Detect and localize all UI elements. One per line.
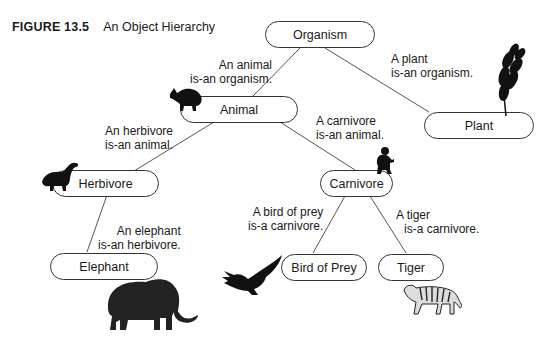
wheat-icon	[492, 40, 532, 116]
node-label: Animal	[220, 103, 258, 117]
relation-tiger-carnivore: A tiger is-a carnivore.	[396, 208, 479, 236]
node-plant: Plant	[424, 112, 534, 139]
eagle-icon	[220, 253, 284, 301]
node-organism: Organism	[265, 21, 375, 48]
node-label: Plant	[465, 119, 494, 133]
relation-elephant-herbivore: An elephant is-an herbivore.	[98, 224, 181, 252]
node-label: Carnivore	[329, 177, 383, 191]
monkey-icon	[372, 146, 396, 176]
relation-carnivore-animal: A carnivore is-an animal.	[316, 114, 384, 142]
node-label: Elephant	[79, 260, 128, 274]
node-label: Herbivore	[78, 177, 132, 191]
relation-animal-organism: An animal is-an organism.	[190, 58, 272, 86]
relation-bird-carnivore: A bird of prey is-a carnivore.	[248, 205, 323, 233]
dinosaur-icon	[40, 162, 82, 192]
tiger-icon	[400, 280, 464, 316]
node-tiger: Tiger	[378, 254, 444, 281]
node-bird-of-prey: Bird of Prey	[281, 254, 367, 281]
node-label: Tiger	[397, 261, 425, 275]
relation-plant-organism: A plant is-an organism.	[391, 52, 473, 80]
node-label: Organism	[293, 28, 347, 42]
node-label: Bird of Prey	[291, 261, 356, 275]
elephant-icon	[104, 276, 200, 332]
relation-herbivore-animal: An herbivore is-an animal.	[105, 124, 173, 152]
aardvark-icon	[168, 84, 204, 112]
